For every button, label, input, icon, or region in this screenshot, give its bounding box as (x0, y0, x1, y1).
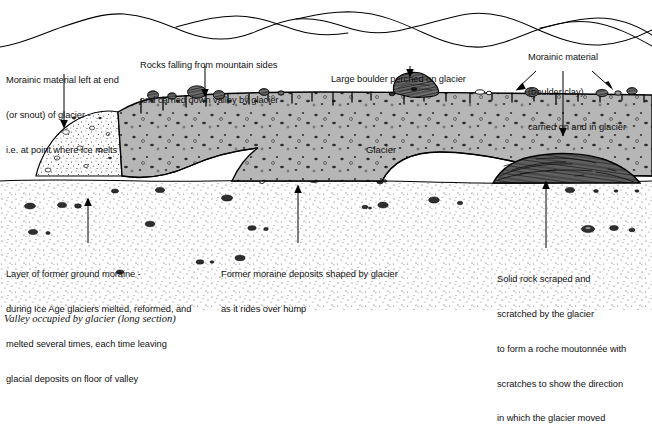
annotation-line: i.e. at point where ice melts (6, 145, 206, 157)
annotation-line: (boulder clay) (528, 87, 652, 99)
annotation-line: in which the glacier moved (497, 413, 652, 425)
annotation-line: Morainic material (528, 52, 652, 64)
annotation-rocks-falling: Rocks falling from mountain sides and ca… (140, 37, 355, 130)
annotation-large-boulder: Large boulder perched on glacier (331, 51, 501, 109)
annotation-line: Rocks falling from mountain sides (140, 60, 355, 72)
annotation-boulder-clay: Morainic material (boulder clay) carried… (528, 29, 652, 157)
annotation-roche-moutonnee: Solid rock scraped and scratched by the … (497, 251, 652, 427)
annotation-line: as it rides over hump (221, 304, 436, 316)
glacier-label: Glacier (366, 144, 396, 155)
annotation-line: Large boulder perched on glacier (331, 74, 501, 86)
annotation-line: scratched by the glacier (497, 309, 652, 321)
annotation-line: melted several times, each time leaving (6, 339, 231, 351)
annotation-former-moraine-hump: Former moraine deposits shaped by glacie… (221, 246, 436, 339)
annotation-line: carried on and in glacier (528, 122, 652, 134)
annotation-line: Former moraine deposits shaped by glacie… (221, 269, 436, 281)
annotation-line: Solid rock scraped and (497, 274, 652, 286)
figure-caption: Valley occupied by glacier (long section… (4, 313, 176, 324)
annotation-line: and carried down valley by glacier (140, 95, 355, 107)
annotation-ground-moraine: Layer of former ground moraine - during … (6, 246, 231, 408)
annotation-line: glacial deposits on floor of valley (6, 374, 231, 386)
annotation-line: scratches to show the direction (497, 379, 652, 391)
annotation-line: to form a roche moutonnée with (497, 344, 652, 356)
annotation-line: Layer of former ground moraine - (6, 269, 231, 281)
